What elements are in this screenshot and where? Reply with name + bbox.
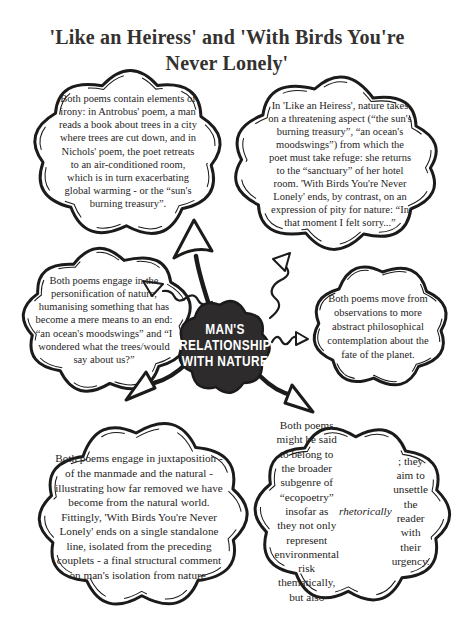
bubble-personification: Both poems engage in the personification… [12,243,196,397]
bubble-personification-text: Both poems engage in the personification… [12,243,196,397]
central-topic-label: MAN'S RELATIONSHIP WITH NATURE [178,290,271,402]
bubble-juxtaposition-text: Both poems engage in juxtaposition - of … [26,422,252,612]
bubble-irony: Both poems contain elements of irony: in… [30,66,226,236]
bubble-ecopoetry-text: Both poems might be said to belong to th… [250,420,454,602]
mindmap-canvas: 'Like an Heiress' and 'With Birds You're… [0,0,454,627]
bubble-irony-text: Both poems contain elements of irony: in… [30,66,226,236]
bubble-philosophy: Both poems move from observations to mor… [303,263,453,391]
bubble-ecopoetry: Both poems might be said to belong to th… [250,420,454,602]
bubble-central-topic: MAN'S RELATIONSHIP WITH NATURE [176,296,274,396]
bubble-philosophy-text: Both poems move from observations to mor… [303,263,453,391]
bubble-threat: In 'Like an Heiress', nature takes on a … [228,76,452,252]
bubble-threat-text: In 'Like an Heiress', nature takes on a … [228,76,452,252]
bubble-juxtaposition: Both poems engage in juxtaposition - of … [26,422,252,612]
